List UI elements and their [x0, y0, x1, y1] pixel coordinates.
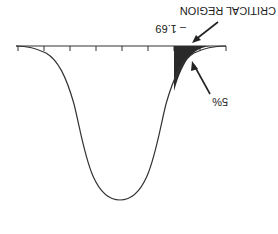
critical-value-label: – 1.69 [155, 23, 186, 35]
normal-distribution-diagram: CRITICAL REGION – 1.69 5% [0, 0, 278, 234]
critical-region-arrow [192, 22, 218, 43]
tail-area-label: 5% [212, 96, 228, 108]
tail-area-arrow [191, 61, 210, 94]
diagram-canvas: CRITICAL REGION – 1.69 5% [0, 0, 278, 234]
critical-region-label: CRITICAL REGION [180, 5, 276, 17]
